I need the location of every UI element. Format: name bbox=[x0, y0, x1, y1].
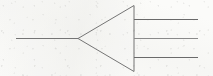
schematic-drawing bbox=[0, 0, 213, 76]
triangle-body bbox=[78, 6, 134, 72]
diagram-canvas: Amplifier / buffer triangle symbol with … bbox=[0, 0, 213, 76]
